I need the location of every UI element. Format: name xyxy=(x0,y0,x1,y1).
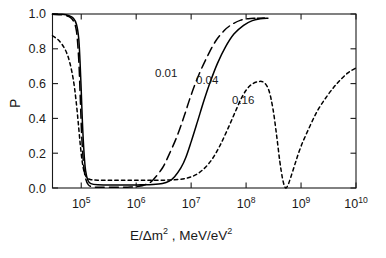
x-tick-mantissa: 10 xyxy=(237,197,251,211)
x-tick-label-5: 1010 xyxy=(341,196,371,211)
curve-label-1: 0.04 xyxy=(196,75,218,87)
x-tick-exponent: 10 xyxy=(358,195,368,205)
x-tick-mantissa: 10 xyxy=(182,197,196,211)
curve-0.16 xyxy=(53,36,357,188)
y-tick-label-0.2: 0.2 xyxy=(12,148,46,161)
x-tick-mantissa: 10 xyxy=(72,197,86,211)
chart-figure: 1.0 0.8 0.6 0.4 0.2 0.0 P 10510610710810… xyxy=(0,0,386,258)
x-tick-label-1: 106 xyxy=(121,196,151,211)
y-tick-label-1.0: 1.0 xyxy=(12,8,46,21)
x-tick-label-0: 105 xyxy=(66,196,96,211)
chart-canvas xyxy=(0,0,386,258)
x-tick-mantissa: 10 xyxy=(344,197,358,211)
x-tick-exponent: 6 xyxy=(141,195,146,205)
x-axis-title-sup2: 2 xyxy=(227,226,232,236)
x-tick-exponent: 7 xyxy=(196,195,201,205)
x-tick-exponent: 8 xyxy=(251,195,256,205)
curve-label-0: 0.01 xyxy=(155,68,177,80)
y-axis-title: P xyxy=(8,99,22,108)
x-tick-label-3: 108 xyxy=(231,196,261,211)
x-axis-title: E/Δm2 , MeV/eV2 xyxy=(130,227,232,242)
curve-label-2: 0.16 xyxy=(232,95,254,107)
x-tick-mantissa: 10 xyxy=(292,197,306,211)
data-curves xyxy=(53,14,357,188)
x-axis-title-main: E/Δm xyxy=(130,228,163,243)
x-axis-title-mid: , MeV/eV xyxy=(168,228,227,243)
x-tick-exponent: 9 xyxy=(306,195,311,205)
x-tick-label-2: 107 xyxy=(176,196,206,211)
y-tick-label-0.6: 0.6 xyxy=(12,78,46,91)
x-tick-mantissa: 10 xyxy=(127,197,141,211)
y-tick-label-0.4: 0.4 xyxy=(12,113,46,126)
x-tick-label-4: 109 xyxy=(286,196,316,211)
y-tick-label-0.8: 0.8 xyxy=(12,43,46,56)
x-tick-exponent: 5 xyxy=(86,195,91,205)
y-tick-label-0.0: 0.0 xyxy=(12,183,46,196)
